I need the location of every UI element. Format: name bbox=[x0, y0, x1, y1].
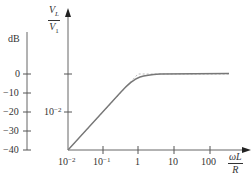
x-tick-exp: −2 bbox=[68, 156, 75, 164]
x-tick-exp: −1 bbox=[103, 156, 110, 164]
x-tick-base: 100 bbox=[201, 156, 216, 167]
x-label-denominator: R bbox=[228, 164, 243, 175]
chart-canvas bbox=[0, 0, 252, 181]
ratio-tick-label: 10−2 bbox=[44, 107, 61, 117]
x-tick-label: 10 bbox=[168, 157, 178, 167]
x-label-numerator: ωL bbox=[228, 152, 243, 164]
db-tick-label: 0 bbox=[15, 69, 20, 79]
ratio-tick-base: 10 bbox=[44, 106, 54, 117]
ratio-axis-arrow-icon bbox=[65, 8, 71, 17]
x-axis-arrow-icon bbox=[242, 147, 251, 153]
ratio-numerator: VL bbox=[48, 5, 60, 21]
db-tick-label: −10 bbox=[3, 88, 19, 98]
x-tick-base: 10 bbox=[93, 156, 103, 167]
db-axis-label: dB bbox=[8, 34, 20, 44]
x-tick-label: 100 bbox=[201, 157, 216, 167]
x-tick-label: 10−2 bbox=[58, 157, 75, 167]
x-tick-base: 10 bbox=[58, 156, 68, 167]
response-curve bbox=[68, 74, 229, 151]
ratio-tick-exp: −2 bbox=[54, 106, 61, 114]
ratio-num-sub: L bbox=[55, 10, 59, 18]
db-tick-label: −20 bbox=[3, 107, 19, 117]
x-tick-label: 1 bbox=[135, 157, 140, 167]
ratio-axis-label: VL V1 bbox=[48, 5, 60, 36]
db-tick-label: −30 bbox=[3, 126, 19, 136]
x-tick-base: 10 bbox=[168, 156, 178, 167]
x-tick-base: 1 bbox=[135, 156, 140, 167]
ratio-den-sub: 1 bbox=[55, 27, 59, 35]
ratio-denominator: V1 bbox=[48, 21, 60, 36]
x-axis-label: ωL R bbox=[228, 152, 243, 175]
db-tick-label: −40 bbox=[3, 145, 19, 155]
asymptote-line bbox=[68, 74, 229, 150]
x-tick-label: 10−1 bbox=[93, 157, 110, 167]
